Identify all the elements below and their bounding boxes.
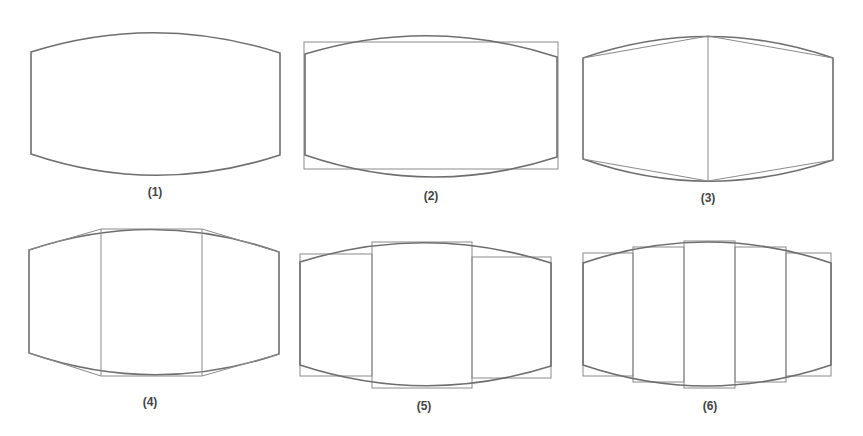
barrel-curve bbox=[31, 33, 280, 176]
panel-label-3: (3) bbox=[701, 191, 716, 205]
panel-label-4: (4) bbox=[143, 395, 158, 409]
approx-polyline-bottom bbox=[29, 353, 279, 376]
panel-label-6: (6) bbox=[703, 399, 718, 413]
panel-5: (5) bbox=[300, 242, 551, 413]
barrel-curve bbox=[29, 229, 279, 374]
panel-label-2: (2) bbox=[424, 189, 439, 203]
panel-6: (6) bbox=[583, 241, 831, 413]
approx-rect-right bbox=[472, 257, 551, 378]
approx-rect-4 bbox=[735, 247, 786, 382]
approx-rect-3 bbox=[684, 241, 735, 388]
barrel-curve bbox=[583, 242, 831, 386]
approx-rect-left bbox=[300, 254, 372, 376]
approx-rect-2 bbox=[633, 247, 684, 382]
panel-1: (1) bbox=[31, 33, 280, 199]
panel-3: (3) bbox=[583, 36, 833, 205]
panel-label-1: (1) bbox=[148, 185, 163, 199]
panel-label-5: (5) bbox=[417, 399, 432, 413]
approx-rectangle bbox=[304, 42, 558, 169]
barrel-curve bbox=[305, 36, 557, 177]
approx-rect-middle bbox=[372, 242, 472, 388]
barrel-curve bbox=[300, 243, 551, 386]
approx-rect-1 bbox=[583, 253, 633, 376]
approx-rect-5 bbox=[786, 253, 831, 376]
panel-2: (2) bbox=[304, 36, 558, 203]
barrel-approximation-diagram: (1) (2) (3) (4) (5) (6) bbox=[0, 0, 863, 436]
panel-4: (4) bbox=[29, 229, 279, 409]
approx-polyline-top bbox=[29, 229, 279, 252]
